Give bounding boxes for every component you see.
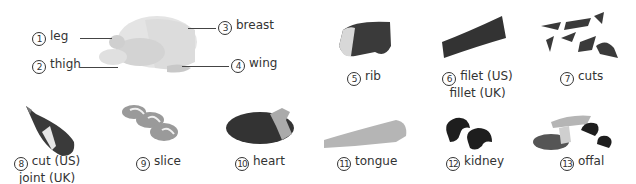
label-filet: 6filet (US)fillet (UK): [440, 69, 515, 100]
leader-leg: [80, 38, 112, 39]
heart-illustration: [224, 104, 304, 149]
joint-illustration: [22, 102, 82, 162]
label-breast: 3breast: [218, 18, 274, 35]
label-slice: 9slice: [136, 154, 181, 171]
tongue-illustration: [320, 112, 410, 152]
offal-illustration: [531, 110, 619, 155]
cuts-illustration: [536, 12, 621, 62]
kidney-illustration: [440, 112, 500, 152]
leader-breast: [188, 28, 216, 29]
label-cuts: 7cuts: [560, 69, 603, 86]
leader-wing: [182, 66, 229, 67]
label-kidney: 12kidney: [446, 154, 504, 171]
label-heart: 10heart: [235, 154, 285, 171]
label-leg: 1leg: [32, 29, 68, 46]
label-thigh: 2thigh: [32, 57, 81, 74]
label-joint: 8cut (US)joint (UK): [12, 154, 82, 184]
filet-illustration: [438, 14, 508, 59]
slice-illustration: [120, 102, 185, 147]
label-rib: 5rib: [347, 69, 381, 86]
label-offal: 13offal: [560, 154, 604, 171]
label-tongue: 11tongue: [337, 154, 397, 171]
rib-illustration: [335, 16, 395, 61]
label-wing: 4wing: [231, 56, 277, 73]
leader-thigh: [80, 67, 118, 68]
